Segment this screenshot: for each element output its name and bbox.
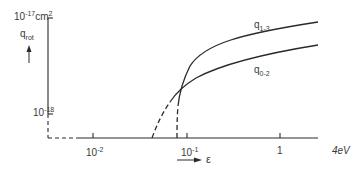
series-label-q02: q0-2 (254, 65, 270, 77)
y-axis-sub: rot (26, 34, 34, 41)
y-low-base: 10 (33, 107, 44, 118)
y-unit-suffix-exp: 2 (49, 10, 53, 17)
y-axis-unit-label: 10-17cm2 (14, 10, 53, 22)
y-arrow-head-icon (27, 45, 32, 52)
x-tick-2-base: 10 (181, 147, 192, 158)
x-tick-label-1e-1: 10-1 (181, 146, 198, 158)
curve-q13 (170, 45, 318, 102)
y-low-exp: -18 (44, 106, 54, 113)
x-tick-1-exp: -2 (97, 146, 103, 153)
y-unit-suffix: cm (35, 11, 48, 22)
curve-q02 (178, 22, 318, 106)
series-2-sub: 0-2 (260, 70, 270, 77)
x-end-label: 4eV (332, 146, 350, 156)
curve-q02-dashed (177, 106, 178, 138)
series-label-q13: q1-3 (254, 20, 270, 32)
y-tick-label-1e-18: 10-18 (33, 106, 54, 118)
x-tick-2-exp: -1 (192, 146, 198, 153)
x-axis-symbol: ε (206, 154, 211, 165)
x-arrow-head-icon (194, 158, 202, 163)
curve-q13-dashed (152, 102, 170, 138)
series-1-sub: 1-3 (260, 25, 270, 32)
x-tick-label-1e-2: 10-2 (86, 146, 103, 158)
x-tick-1-base: 10 (86, 147, 97, 158)
x-tick-label-1: 1 (277, 146, 283, 156)
y-unit-base: 10 (14, 11, 25, 22)
y-axis-title: qrot (20, 29, 34, 41)
y-unit-exp: -17 (25, 10, 35, 17)
